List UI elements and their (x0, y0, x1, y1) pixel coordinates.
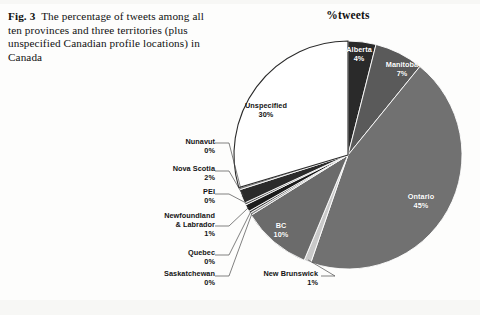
slice-label-new-brunswick-name: New Brunswick (263, 269, 318, 278)
leader-line-saskatchewan (215, 213, 252, 276)
slice-label-saskatchewan-pct: 0% (131, 278, 215, 287)
slice-label-newfoundland-labrador: Newfoundland & Labrador 1% (131, 211, 215, 238)
slice-label-ontario: Ontario 45% (399, 192, 443, 210)
slice-label-bc-pct: 10% (261, 230, 301, 239)
slice-label-ontario-pct: 45% (399, 201, 443, 210)
slice-label-nova-scotia-pct: 2% (133, 173, 215, 182)
slice-label-quebec: Quebec 0% (151, 248, 215, 266)
slice-label-pei-name: PEI (203, 187, 215, 196)
slice-label-manitoba-pct: 7% (377, 69, 427, 78)
slice-label-quebec-pct: 0% (151, 257, 215, 266)
leader-line-quebec (215, 211, 251, 255)
slice-label-ontario-name: Ontario (408, 192, 434, 201)
slice-label-new-brunswick: New Brunswick 1% (232, 269, 318, 287)
pie-chart: %tweets Alberta 4% Manitoba 7% Ontario 4… (0, 0, 480, 315)
slice-label-quebec-name: Quebec (188, 248, 215, 257)
slice-label-alberta-pct: 4% (338, 54, 380, 63)
slice-label-nunavut: Nunavut 0% (149, 137, 215, 155)
slice-label-saskatchewan: Saskatchewan 0% (131, 269, 215, 287)
slice-label-nova-scotia-name: Nova Scotia (173, 164, 215, 173)
slice-label-newfoundland-pct: 1% (131, 229, 215, 238)
slice-label-new-brunswick-pct: 1% (232, 278, 318, 287)
slice-label-unspecified-pct: 30% (232, 110, 300, 119)
slice-label-pei: PEI 0% (163, 187, 215, 205)
slice-label-saskatchewan-name: Saskatchewan (164, 269, 215, 278)
slice-label-newfoundland-line2: & Labrador (131, 220, 215, 229)
slice-label-nova-scotia: Nova Scotia 2% (133, 164, 215, 182)
slice-label-alberta: Alberta 4% (338, 45, 380, 63)
leader-line-newfoundland-labrador (215, 207, 249, 226)
slice-label-alberta-name: Alberta (346, 45, 372, 54)
chart-title: %tweets (283, 9, 413, 21)
figure-page: Fig. 3 The percentage of tweets among al… (0, 0, 480, 315)
slice-label-nunavut-pct: 0% (149, 146, 215, 155)
slice-label-unspecified: Unspecified 30% (232, 101, 300, 119)
slice-label-unspecified-name: Unspecified (245, 101, 287, 110)
slice-label-nunavut-name: Nunavut (185, 137, 215, 146)
slice-label-bc-name: BC (276, 221, 287, 230)
slice-label-manitoba: Manitoba 7% (377, 60, 427, 78)
slice-label-pei-pct: 0% (163, 196, 215, 205)
slice-label-bc: BC 10% (261, 221, 301, 239)
slice-label-newfoundland-line1: Newfoundland (164, 211, 215, 220)
slice-label-manitoba-name: Manitoba (386, 60, 418, 69)
